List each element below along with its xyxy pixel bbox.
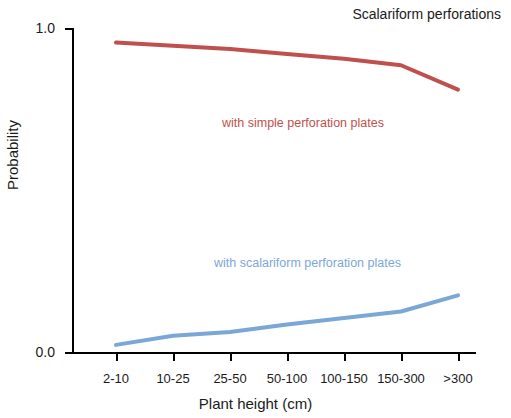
chart-container: Scalariform perforations Probability 0.0… <box>0 0 511 418</box>
x-tick-label-0: 2-10 <box>103 371 129 386</box>
series-layer <box>72 28 476 354</box>
series-line-simple-perforation-plates <box>116 43 458 90</box>
series-line-scalariform-perforation-plates <box>116 295 458 345</box>
x-tick-6: >300 <box>458 354 460 361</box>
series-annotation-simple: with simple perforation plates <box>222 116 384 130</box>
x-tick-2: 25-50 <box>230 354 232 361</box>
chart-title: Scalariform perforations <box>352 6 501 22</box>
x-tick-label-2: 25-50 <box>213 371 246 386</box>
y-tick-1: 1.0 <box>65 28 72 30</box>
x-tick-1: 10-25 <box>173 354 175 361</box>
x-tick-5: 150-300 <box>401 354 403 361</box>
x-tick-4: 100-150 <box>344 354 346 361</box>
x-tick-label-3: 50-100 <box>267 371 307 386</box>
y-tick-label-0: 0.0 <box>36 344 55 360</box>
series-annotation-scalariform: with scalariform perforation plates <box>214 256 401 270</box>
x-tick-label-1: 10-25 <box>156 371 189 386</box>
y-axis-label: Probability <box>4 120 21 190</box>
x-tick-label-5: 150-300 <box>377 371 425 386</box>
y-tick-0: 0.0 <box>65 352 72 354</box>
x-tick-label-4: 100-150 <box>320 371 368 386</box>
plot-area: 0.0 1.0 2-10 10-25 25-50 50-100 100-150 … <box>72 28 476 354</box>
x-tick-label-6: >300 <box>443 371 472 386</box>
x-tick-0: 2-10 <box>116 354 118 361</box>
x-tick-3: 50-100 <box>287 354 289 361</box>
x-axis-label: Plant height (cm) <box>0 395 511 412</box>
y-tick-label-1: 1.0 <box>36 20 55 36</box>
